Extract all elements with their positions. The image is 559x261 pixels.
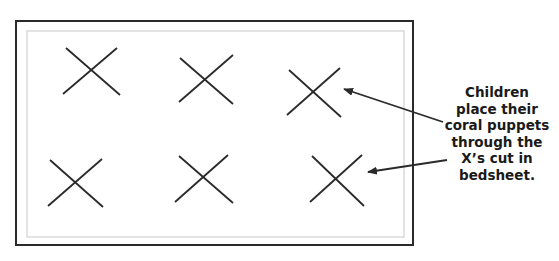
caption-line-4: through the	[436, 134, 558, 151]
caption-line-1: Children	[436, 84, 558, 101]
caption-line-3: coral puppets	[436, 117, 558, 134]
caption-line-5: X’s cut in	[436, 150, 558, 167]
caption-line-2: place their	[436, 101, 558, 118]
bedsheet-outer-border	[16, 21, 413, 245]
annotation-caption: Children place their coral puppets throu…	[436, 84, 558, 183]
caption-line-6: bedsheet.	[436, 167, 558, 184]
